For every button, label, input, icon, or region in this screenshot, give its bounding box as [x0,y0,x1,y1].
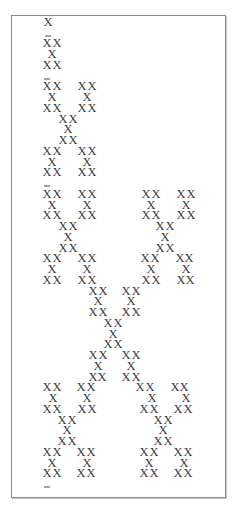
x-glyph: X [186,209,195,222]
x-glyph: X [97,370,106,383]
x-glyph: X [76,467,85,480]
x-glyph: X [165,241,174,254]
x-glyph: X [77,403,86,416]
x-glyph: X [42,102,51,115]
x-glyph: X [141,209,150,222]
x-glyph: X [77,166,86,179]
x-glyph: X [86,467,95,480]
x-glyph: X [88,306,97,319]
x-glyph: X [176,209,185,222]
x-glyph: X [163,435,172,448]
x-glyph: X [151,274,160,287]
x-glyph: X [77,102,86,115]
x-glyph: X [68,134,77,147]
x-glyph: X [52,166,61,179]
x-glyph: X [67,435,76,448]
x-glyph: X [121,306,130,319]
x-glyph: X [135,381,144,394]
x-glyph: X [149,467,158,480]
x-glyph: X [183,403,192,416]
x-glyph: X [68,241,77,254]
x-glyph: X [185,274,194,287]
x-glyph: X [42,59,51,72]
x-glyph: X [131,306,140,319]
x-glyph: X [87,403,96,416]
x-glyph: X [170,381,179,394]
x-glyph: X [42,166,51,179]
x-glyph: X [42,467,51,480]
x-glyph: X [52,59,61,72]
x-glyph: X [77,209,86,222]
x-glyph: X [87,102,96,115]
x-glyph: X [139,467,148,480]
x-glyph: X [87,209,96,222]
x-glyph: X [173,403,182,416]
x-glyph: X [183,467,192,480]
x-glyph: X [42,274,51,287]
x-glyph: X [77,274,86,287]
x-glyph: X [139,403,148,416]
x-glyph: X [173,467,182,480]
x-glyph: X [42,403,51,416]
separator-dash [44,487,50,488]
x-glyph: X [42,209,51,222]
x-glyph: X [141,274,150,287]
x-glyph: X [43,16,52,29]
x-glyph: X [87,166,96,179]
x-glyph: X [52,467,61,480]
x-glyph: X [121,370,130,383]
x-glyph: X [176,274,185,287]
x-glyph: X [52,274,61,287]
